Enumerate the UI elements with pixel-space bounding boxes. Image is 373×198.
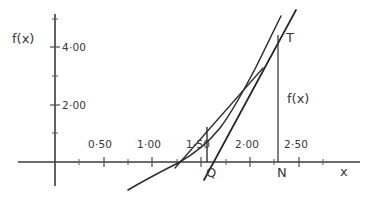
x-tick-label-0-50: 0·50	[88, 139, 112, 150]
x-tick-label-1-00: 1·00	[137, 139, 161, 150]
x-tick-label-2-50: 2·50	[284, 139, 308, 150]
ordinate-label-fx: f(x)	[287, 92, 309, 105]
graph-figure: f(x) 4·00 2·00 0·50 1·00 1·50 2·00 2·50 …	[0, 0, 373, 198]
y-tick-label-2: 2·00	[62, 100, 86, 111]
x-tick-label-1-50: 1·50	[186, 139, 210, 150]
x-axis-title: x	[340, 165, 348, 178]
point-label-T: T	[286, 31, 294, 44]
plot-canvas	[0, 0, 373, 198]
x-tick-label-2-00: 2·00	[235, 139, 259, 150]
point-label-N: N	[277, 166, 287, 179]
y-tick-label-4: 4·00	[62, 42, 86, 53]
tangent-line	[204, 10, 296, 180]
point-label-Q: Q	[206, 166, 216, 179]
y-axis-title: f(x)	[12, 32, 34, 45]
function-curve	[128, 16, 281, 190]
